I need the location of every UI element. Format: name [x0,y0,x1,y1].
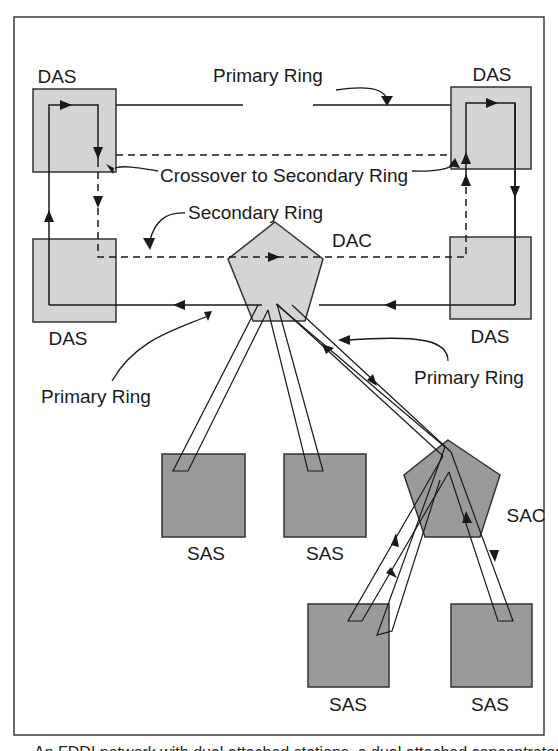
fddi-diagram: DAS DAS DAS DAS DAC SAC SAS SAS SAS SAS … [0,0,558,751]
link-dac-sas1 [173,305,268,471]
sas-box-4 [451,604,532,687]
label-das-top-left: DAS [37,66,76,87]
dac-sac-arrows [322,344,377,386]
sas-box-2 [284,454,366,537]
sas-box-3 [308,604,389,687]
label-das-top-right: DAS [472,64,511,85]
das-bottom-right [450,237,531,319]
annotation-crossover: Crossover to Secondary Ring [160,165,408,186]
label-sas-2: SAS [306,543,344,564]
annotation-secondary-ring: Secondary Ring [188,202,323,223]
label-sas-3: SAS [329,694,367,715]
figure-caption: An FDDI network with dual attached stati… [34,742,558,751]
das-top-left [33,89,116,172]
annotation-primary-ring-top: Primary Ring [213,65,323,86]
annotation-primary-ring-left: Primary Ring [41,386,151,407]
link-dac-sas2 [268,304,323,471]
sac-sas3-arrows [386,533,399,578]
label-sas-1: SAS [187,543,225,564]
sas-box-1 [162,454,245,537]
label-das-bottom-left: DAS [48,328,87,349]
label-dac: DAC [332,230,372,251]
das-top-right [451,87,531,169]
dac-concentrator [228,222,323,321]
label-das-bottom-right: DAS [470,326,509,347]
das-bottom-left [33,239,116,322]
annotation-primary-ring-right: Primary Ring [414,367,524,388]
label-sas-4: SAS [471,694,509,715]
label-sac: SAC [506,505,545,526]
